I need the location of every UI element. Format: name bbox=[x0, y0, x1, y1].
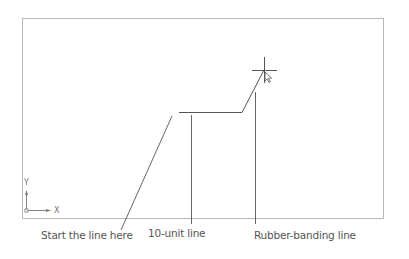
drawing-canvas[interactable] bbox=[0, 0, 409, 259]
ucs-y-label: Y bbox=[24, 178, 29, 187]
ucs-icon bbox=[25, 190, 51, 212]
leader-start bbox=[121, 116, 172, 230]
drawing-area-frame bbox=[23, 19, 384, 219]
callout-rubber-label: Rubber-banding line bbox=[254, 229, 356, 241]
ucs-x-label: X bbox=[54, 206, 59, 215]
rubber-banding-line bbox=[242, 70, 264, 113]
callout-ten-unit-label: 10-unit line bbox=[148, 227, 205, 239]
callout-start-label: Start the line here bbox=[41, 229, 133, 241]
crosshair-cursor-icon bbox=[252, 57, 277, 83]
